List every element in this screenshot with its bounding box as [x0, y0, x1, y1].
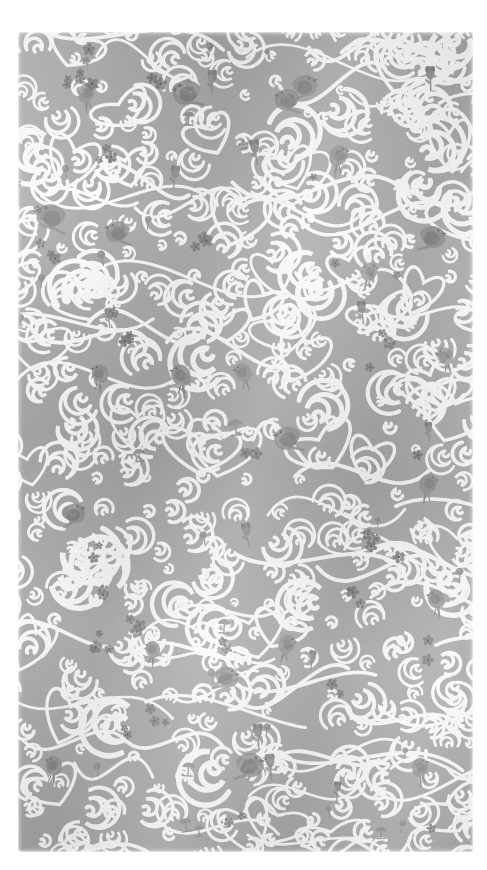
- spiral-scroll-layer: [18, 32, 473, 852]
- margin-note-top: ·· ·: [1, 703, 3, 709]
- pattern-swatch: [18, 32, 473, 852]
- margin-note-bottom: ·: [1, 762, 2, 765]
- page-canvas: ·· · ·: [0, 0, 487, 870]
